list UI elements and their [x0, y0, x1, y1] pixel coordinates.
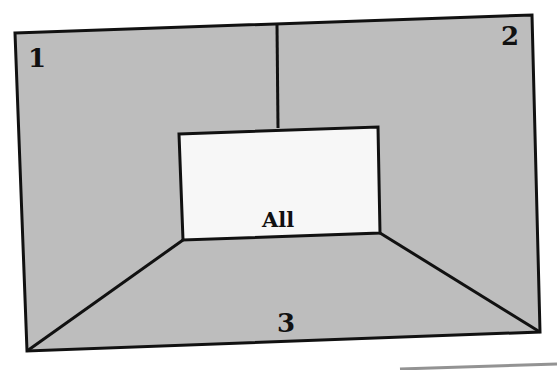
region-label-1: 1: [28, 43, 46, 73]
region-diagram: 1 2 3 All: [0, 0, 557, 370]
page-edge-shadow: [400, 364, 557, 369]
divider-1-2: [277, 25, 278, 128]
region-label-all: All: [261, 207, 294, 232]
region-label-3: 3: [277, 308, 295, 338]
region-label-2: 2: [501, 21, 519, 51]
